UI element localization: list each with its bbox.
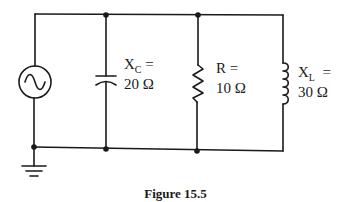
inductor-icon: [283, 63, 288, 104]
resistor-value-text: 10 Ω: [216, 80, 246, 96]
capacitor-symbol: X: [124, 56, 135, 72]
capacitor-value: 20 Ω: [124, 76, 154, 92]
ac-source-icon: [19, 66, 51, 98]
inductor-subscript: L: [309, 72, 315, 83]
junction-dot: [195, 12, 201, 18]
junction-dot: [103, 12, 109, 18]
junction-dot: [194, 148, 200, 154]
inductor-label: XL =: [298, 64, 331, 82]
inductor-equals: =: [322, 64, 330, 80]
figure-caption: Figure 15.5: [0, 186, 351, 202]
junction-dots: [31, 12, 201, 154]
resistor-symbol: R: [216, 60, 226, 76]
capacitor-subscript: C: [135, 64, 142, 75]
ground-icon: [22, 147, 46, 176]
circuit-diagram: [0, 0, 351, 202]
inductor-value-text: 30 Ω: [298, 84, 328, 100]
capacitor-equals: =: [145, 56, 153, 72]
resistor-icon: [193, 65, 203, 102]
bottom-wire: [34, 147, 283, 151]
capacitor-value-text: 20 Ω: [124, 76, 154, 92]
resistor-label: R =: [216, 60, 238, 76]
resistor-equals: =: [230, 60, 238, 76]
inductor-value: 30 Ω: [298, 84, 328, 100]
top-wire: [35, 14, 283, 15]
inductor-symbol: X: [298, 64, 309, 80]
resistor-value: 10 Ω: [216, 80, 246, 96]
capacitor-label: XC =: [124, 56, 154, 74]
junction-dot: [31, 144, 37, 150]
junction-dot: [103, 146, 109, 152]
